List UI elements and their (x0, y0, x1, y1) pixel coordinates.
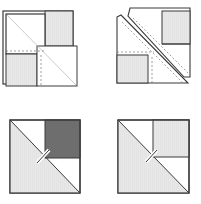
panel-step-2 (117, 8, 190, 83)
quilt-diagram (0, 0, 201, 204)
panel-step-3 (10, 120, 80, 193)
panel-step-1 (3, 11, 77, 86)
panel-step-4 (118, 120, 189, 193)
